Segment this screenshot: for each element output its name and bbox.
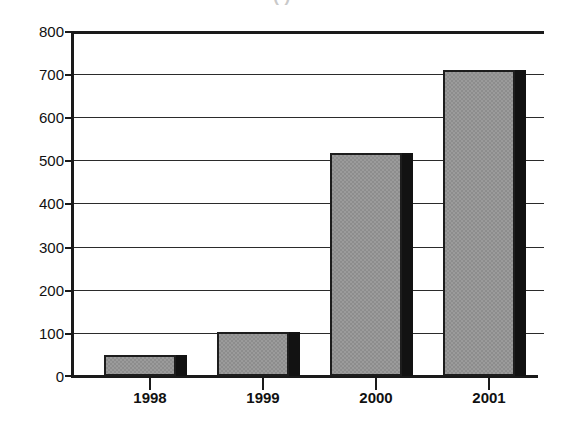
gridline-800	[73, 31, 544, 34]
x-label-1998: 1998	[133, 389, 166, 406]
x-label-1999: 1999	[246, 389, 279, 406]
x-label-2000: 2000	[359, 389, 392, 406]
y-tick-label-400: 400	[2, 196, 64, 211]
y-axis-tick-labels: 800 700 600 500 400 300 200 100 0	[0, 31, 64, 376]
y-tick-label-800: 800	[2, 24, 64, 39]
x-label-2001: 2001	[472, 389, 505, 406]
bar-1998-face	[104, 355, 176, 376]
bar-chart: ( ) 800 700 600 500 400 300 200 100 0	[0, 0, 564, 433]
bar-1999-face	[217, 332, 289, 376]
y-tick-label-0: 0	[2, 369, 64, 384]
y-tick-label-700: 700	[2, 67, 64, 82]
bar-2000-face	[330, 153, 402, 376]
chart-title-cutoff: ( )	[0, 0, 564, 5]
bar-2001-face	[443, 70, 515, 376]
plot-area	[73, 31, 544, 376]
y-tick-label-500: 500	[2, 153, 64, 168]
x-axis-category-labels: 1998 1999 2000 2001	[73, 389, 544, 411]
y-tick-label-600: 600	[2, 110, 64, 125]
y-tick-label-100: 100	[2, 326, 64, 341]
y-tick-label-300: 300	[2, 240, 64, 255]
y-tick-label-200: 200	[2, 283, 64, 298]
y-axis-line	[71, 31, 74, 376]
